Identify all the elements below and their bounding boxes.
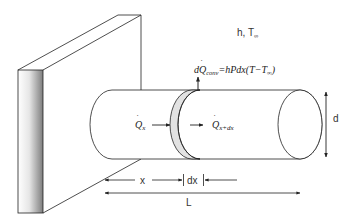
diameter-label: d (333, 113, 339, 124)
dot-mark: · (214, 111, 216, 120)
length-label: L (186, 197, 192, 208)
dot-mark: · (137, 111, 139, 120)
cylinder-fin (90, 90, 322, 159)
position-label: x (140, 175, 145, 186)
wall-front-face (18, 70, 43, 213)
dot-mark: · (201, 56, 203, 65)
element-label: dx (187, 175, 198, 186)
convection-equation: dQconv=hPdx(T−T∞) (194, 64, 276, 76)
cylinder-end (278, 90, 322, 159)
environment-label: h, T∞ (237, 27, 258, 39)
fin-diagram: h, T∞ dQconv=hPdx(T−T∞) · Qx · Qx+dx · d… (0, 0, 354, 224)
